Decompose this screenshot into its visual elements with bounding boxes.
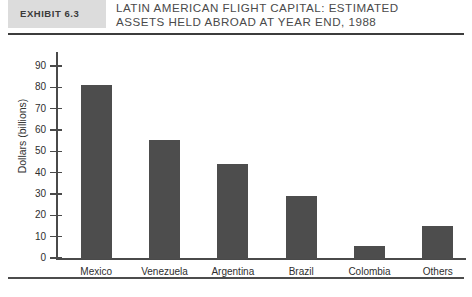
y-tick-50 [50,151,62,153]
y-tick-label: 50 [16,146,46,156]
y-tick-label: 80 [16,82,46,92]
bar-argentina [217,164,248,259]
y-tick-label: 10 [16,232,46,242]
y-axis-line [56,52,58,260]
header-divider-rule [8,33,464,35]
y-tick-20 [50,215,62,217]
exhibit-title-line-2: ASSETS HELD ABROAD AT YEAR END, 1988 [116,15,464,29]
exhibit-title: LATIN AMERICAN FLIGHT CAPITAL: ESTIMATED… [116,1,464,29]
y-tick-label: 30 [16,189,46,199]
y-tick-60 [50,129,62,131]
bar-others [422,226,453,259]
y-tick-80 [50,87,62,89]
exhibit-title-line-1: LATIN AMERICAN FLIGHT CAPITAL: ESTIMATED [116,1,464,15]
y-tick-30 [50,193,62,195]
bar-chart: Dollars (billions) 0102030405060708090 M… [0,38,472,274]
exhibit-number-label: EXHIBIT 6.3 [20,8,110,19]
bar-venezuela [149,140,180,259]
x-axis-line [56,258,466,260]
y-tick-label: 70 [16,104,46,114]
x-label-others: Others [395,266,472,277]
bar-colombia [354,246,385,259]
y-tick-0 [50,257,62,259]
y-tick-label: 60 [16,125,46,135]
exhibit-header: EXHIBIT 6.3 LATIN AMERICAN FLIGHT CAPITA… [0,0,472,32]
footer-divider-rule [8,277,464,279]
y-tick-label: 90 [16,61,46,71]
y-tick-label: 40 [16,168,46,178]
y-tick-40 [50,172,62,174]
y-tick-label: 0 [16,253,46,263]
bar-brazil [286,196,317,259]
bar-mexico [81,85,112,259]
y-tick-10 [50,236,62,238]
y-tick-70 [50,108,62,110]
y-tick-label: 20 [16,210,46,220]
y-tick-90 [50,65,62,67]
plot-area: 0102030405060708090 MexicoVenezuelaArgen… [56,52,466,265]
